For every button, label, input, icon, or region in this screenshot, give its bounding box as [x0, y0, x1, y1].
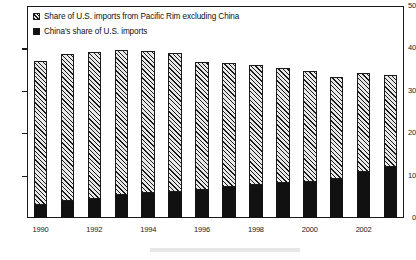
x-tick-label: 1994	[132, 225, 164, 234]
bar-segment-china	[384, 167, 398, 218]
x-tick-label: 1992	[78, 225, 110, 234]
bar-segment-china	[249, 185, 263, 218]
bar-segment-pacific-rim	[222, 63, 236, 187]
x-tick-label: 2002	[348, 225, 380, 234]
bar-column	[61, 54, 75, 218]
bar-segment-pacific-rim	[384, 75, 398, 167]
bar-segment-pacific-rim	[357, 73, 371, 172]
x-tick-label: 1990	[24, 225, 56, 234]
bar-column	[34, 61, 48, 218]
bar-column	[168, 53, 182, 218]
bar-segment-pacific-rim	[195, 62, 209, 190]
bar-segment-china	[195, 190, 209, 218]
bar-segment-china	[34, 205, 48, 218]
bar-segment-china	[115, 195, 129, 218]
bar-column	[195, 62, 209, 218]
bar-column	[222, 63, 236, 218]
bar-segment-china	[303, 182, 317, 218]
bar-column	[303, 71, 317, 218]
bar-column	[141, 51, 155, 218]
bar-segment-pacific-rim	[330, 77, 344, 178]
bar-segment-china	[330, 179, 344, 218]
bar-column	[384, 75, 398, 218]
scan-artifact	[150, 248, 300, 252]
bar-column	[357, 73, 371, 218]
chart-legend: Share of U.S. imports from Pacific Rim e…	[33, 12, 239, 42]
legend-item-label: Share of U.S. imports from Pacific Rim e…	[44, 12, 239, 21]
x-tick-label: 1996	[186, 225, 218, 234]
bar-segment-pacific-rim	[115, 50, 129, 195]
bar-column	[115, 50, 129, 218]
bar-segment-china	[276, 183, 290, 218]
legend-item-pacific-rim: Share of U.S. imports from Pacific Rim e…	[33, 12, 239, 21]
solid-black-swatch-icon	[33, 28, 40, 35]
bar-segment-pacific-rim	[61, 54, 75, 201]
hatched-swatch-icon	[33, 13, 40, 20]
bar-segment-pacific-rim	[303, 71, 317, 181]
bar-segment-pacific-rim	[249, 65, 263, 185]
x-tick-label: 2000	[294, 225, 326, 234]
bar-segment-china	[222, 187, 236, 218]
bar-segment-pacific-rim	[168, 53, 182, 192]
bar-column	[88, 52, 102, 218]
bar-segment-china	[168, 192, 182, 218]
bar-segment-china	[141, 193, 155, 218]
bar-segment-china	[61, 201, 75, 218]
bar-segment-pacific-rim	[276, 68, 290, 183]
bar-segment-pacific-rim	[34, 61, 48, 205]
bar-segment-pacific-rim	[88, 52, 102, 198]
bar-segment-pacific-rim	[141, 51, 155, 194]
bar-segment-china	[88, 199, 102, 219]
legend-item-label: China's share of U.S. imports	[44, 27, 147, 36]
bar-chart: 01020304050 1990199219941996199820002002…	[0, 0, 416, 260]
x-tick-label: 1998	[240, 225, 272, 234]
bar-segment-china	[357, 172, 371, 218]
legend-item-china: China's share of U.S. imports	[33, 27, 239, 36]
bar-column	[249, 65, 263, 218]
bar-column	[276, 68, 290, 218]
bar-column	[330, 77, 344, 218]
